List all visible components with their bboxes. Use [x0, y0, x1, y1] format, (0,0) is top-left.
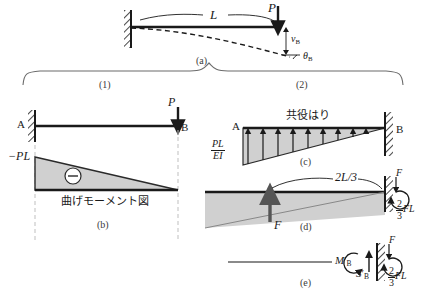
- length-leader-left: [140, 14, 203, 20]
- fixed-support-d: [385, 176, 393, 212]
- fixed-support-left: [28, 110, 35, 142]
- force-label-e: F: [389, 235, 395, 245]
- moment-d-numerator: 2: [396, 199, 403, 211]
- support-label-left: A: [17, 119, 25, 130]
- dimension-label-d: 2L/3: [335, 171, 357, 183]
- conjugate-load-triangle: [243, 128, 385, 165]
- vb-arrow-down: [283, 50, 289, 55]
- mb-subscript: B: [347, 259, 352, 268]
- moment-triangle: [35, 157, 178, 190]
- resultant-label-d: F: [274, 219, 281, 231]
- shear-reaction-label-e: S′B: [356, 268, 369, 280]
- vb-arrow-up: [283, 27, 289, 32]
- brace-tag-1: (1): [99, 80, 111, 90]
- fixed-support-c: [385, 112, 393, 156]
- deflection-label-a: vB: [291, 34, 300, 45]
- moment-e-numerator: 2: [388, 266, 395, 278]
- grouping-brace: [23, 63, 403, 85]
- conjugate-load-value: PL EI: [211, 139, 225, 161]
- dimension-leader-right: [358, 179, 382, 189]
- dimension-leader-left: [272, 178, 333, 188]
- mb-symbol: M: [335, 254, 344, 266]
- panel-b-tag: (b): [97, 220, 109, 230]
- load-label-a: P: [268, 1, 276, 14]
- support-label-c: A: [232, 121, 240, 132]
- panel-d-tag: (d): [300, 222, 312, 232]
- panel-e-group: [228, 243, 402, 281]
- moment-label-d: 2 3 FL: [396, 199, 415, 221]
- panel-a-tag: (a): [196, 56, 207, 66]
- bending-moment-caption: 曲げモーメント図: [61, 196, 149, 207]
- theta-arc: [293, 55, 297, 59]
- moment-d-unit: FL: [403, 203, 415, 214]
- conjugate-beam-caption: 共役はり: [286, 110, 330, 121]
- fixed-support-a: [124, 10, 131, 48]
- panel-1-beam-group: [28, 107, 178, 142]
- moment-d-denominator: 3: [396, 211, 403, 222]
- moment-e-unit: FL: [395, 270, 407, 281]
- deflected-curve-a: [131, 28, 290, 57]
- fixed-support-e: [377, 243, 385, 281]
- moment-value-label: −PL: [8, 150, 30, 162]
- sb-subscript: B: [364, 272, 369, 281]
- length-leader-right: [228, 15, 274, 21]
- wall-label-c: B: [396, 124, 403, 135]
- load-numerator: PL: [211, 139, 225, 151]
- free-end-label-left: B: [181, 122, 188, 133]
- panel-c-tag: (c): [300, 157, 311, 167]
- moment-label-e: 2 3 FL: [388, 266, 407, 288]
- moment-reaction-label-e: M′B: [335, 255, 352, 267]
- load-label-left: P: [168, 96, 175, 108]
- panel-e-tag: (e): [300, 278, 311, 288]
- engineering-figure: L P vB θB (a) (1) (2) A B P −PL 曲げモーメント図…: [0, 0, 423, 300]
- load-denominator: EI: [211, 151, 225, 162]
- shear-label-d: F: [396, 168, 402, 178]
- length-label-a: L: [210, 8, 217, 21]
- rotation-label-a: θB: [303, 51, 312, 62]
- moment-e-denominator: 3: [388, 278, 395, 289]
- vb-subscript: B: [295, 38, 300, 45]
- theta-subscript: B: [308, 55, 313, 62]
- brace-tag-2: (2): [296, 80, 308, 90]
